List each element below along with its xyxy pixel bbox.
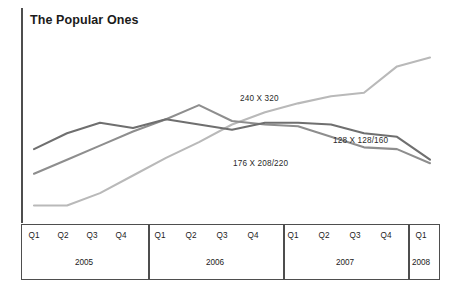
year-group-label: 2006 [197,258,233,267]
quarter-tick-label: Q1 [22,231,46,240]
quarter-tick-label: Q2 [312,231,336,240]
year-group-label: 2007 [327,258,363,267]
chart-container: The Popular Ones 240 X 320176 X 208/2201… [0,0,457,287]
series-label-0: 240 X 320 [240,94,279,103]
year-group-divider [408,224,410,280]
series-label-2: 128 X 128/160 [333,136,388,145]
year-group-label: 2005 [66,258,102,267]
quarter-tick-label: Q4 [241,231,265,240]
quarter-tick-label: Q2 [179,231,203,240]
quarter-tick-label: Q1 [148,231,172,240]
quarter-tick-label: Q3 [80,231,104,240]
quarter-tick-label: Q4 [374,231,398,240]
quarter-tick-label: Q1 [409,231,433,240]
quarter-tick-label: Q2 [51,231,75,240]
series-line-0 [34,58,430,206]
quarter-tick-label: Q4 [109,231,133,240]
series-label-1: 176 X 208/220 [233,159,288,168]
quarter-tick-label: Q3 [343,231,367,240]
year-group-divider [148,224,150,280]
series-lines [34,58,430,206]
year-group-divider [283,224,285,280]
quarter-tick-label: Q3 [210,231,234,240]
